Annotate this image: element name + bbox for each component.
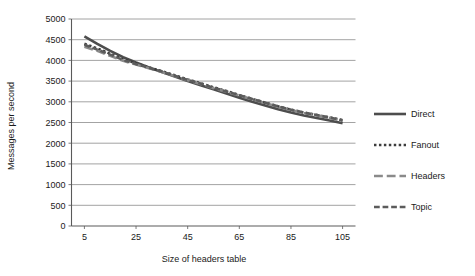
- legend-label-headers: Headers: [411, 171, 446, 181]
- y-tick-label: 2500: [45, 118, 65, 128]
- legend-label-fanout: Fanout: [411, 140, 440, 150]
- x-tick-label: 105: [335, 232, 350, 242]
- y-tick-label: 3500: [45, 76, 65, 86]
- y-tick-label: 1500: [45, 159, 65, 169]
- legend-label-direct: Direct: [411, 109, 435, 119]
- x-tick-label: 25: [131, 232, 141, 242]
- x-axis-title: Size of headers table: [162, 254, 247, 264]
- y-tick-label: 4500: [45, 35, 65, 45]
- x-tick-label: 45: [183, 232, 193, 242]
- chart-canvas: 0500100015002000250030003500400045005000…: [0, 0, 475, 276]
- x-tick-label: 5: [82, 232, 87, 242]
- y-tick-label: 3000: [45, 97, 65, 107]
- y-tick-label: 4000: [45, 56, 65, 66]
- y-tick-label: 500: [50, 201, 65, 211]
- x-tick-label: 85: [286, 232, 296, 242]
- y-tick-label: 2000: [45, 139, 65, 149]
- y-tick-label: 0: [60, 221, 65, 231]
- line-chart: 0500100015002000250030003500400045005000…: [0, 0, 475, 276]
- legend-label-topic: Topic: [411, 202, 433, 212]
- y-tick-label: 5000: [45, 14, 65, 24]
- y-tick-label: 1000: [45, 180, 65, 190]
- y-axis-title: Messages per second: [6, 82, 16, 170]
- x-tick-label: 65: [234, 232, 244, 242]
